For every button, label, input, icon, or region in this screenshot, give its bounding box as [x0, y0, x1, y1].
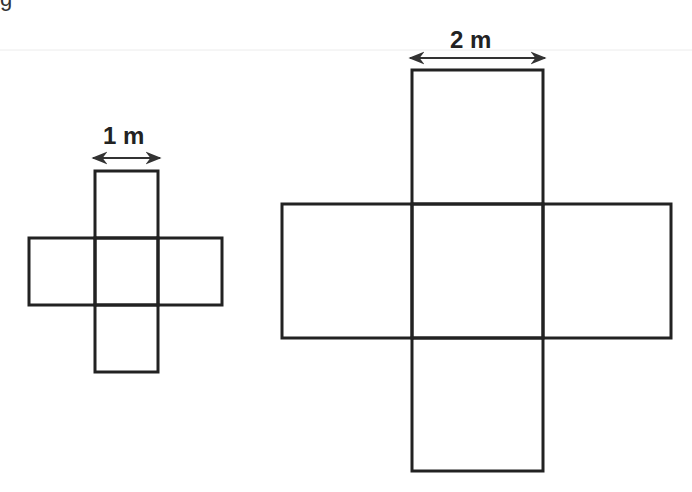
net-face-right	[543, 204, 671, 338]
net-face-center	[412, 204, 543, 338]
net-face-top	[412, 70, 543, 204]
net-face-bottom	[412, 338, 543, 471]
net-face-top	[95, 171, 158, 238]
net-face-bottom	[95, 305, 158, 372]
net-face-right	[158, 238, 222, 305]
net-face-left	[29, 238, 95, 305]
net-face-center	[95, 238, 158, 305]
large-cube-net	[282, 70, 671, 471]
small-cube-net	[29, 171, 222, 372]
small-dimension-label: 1 m	[103, 124, 144, 148]
large-dimension-label: 2 m	[450, 28, 491, 52]
net-face-left	[282, 204, 412, 338]
diagram-canvas	[0, 0, 692, 492]
